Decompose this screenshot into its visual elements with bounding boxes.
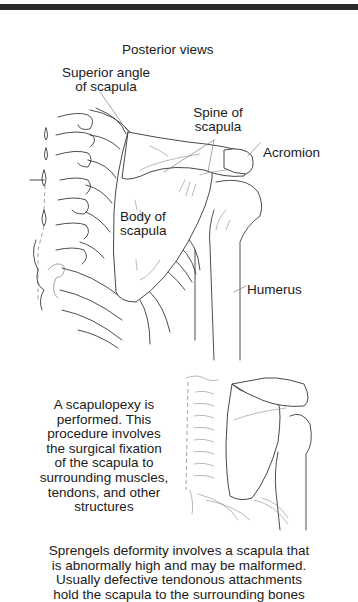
footer-caption-line: Sprengels deformity involves a scapula t… [10,544,348,559]
procedure-caption: A scapulopexy is performed. This procedu… [26,398,182,515]
label-acromion: Acromion [263,145,320,160]
vertebral-column-icon [30,128,64,310]
procedure-caption-line: performed. This [26,413,182,428]
label-humerus: Humerus [247,282,302,297]
label-superior-angle-line2: of scapula [46,80,166,94]
label-body-of-scapula: Body of scapula [120,210,167,238]
acromion-icon [224,149,253,174]
procedure-caption-line: the surgical fixation [26,442,182,457]
procedure-caption-line: structures [26,500,182,515]
figure-title: Posterior views [122,42,214,57]
footer-caption-line: Usually defective tendonous attachments [10,573,348,588]
label-spine-line2: scapula [186,120,250,134]
label-body-line2: scapula [120,224,167,238]
posterior-shoulder-illustration [0,0,358,400]
label-superior-angle-line1: Superior angle [46,66,166,80]
label-spine-of-scapula: Spine of scapula [186,106,250,134]
procedure-caption-line: procedure involves [26,427,182,442]
footer-caption-line: is abnormally high and may be malformed. [10,559,348,574]
procedure-caption-line: of the scapula to [26,456,182,471]
label-superior-angle: Superior angle of scapula [46,66,166,94]
humerus-icon [210,180,262,360]
acromion-leader-line [248,143,260,156]
footer-caption: Sprengels deformity involves a scapula t… [10,544,348,602]
footer-caption-line: hold the scapula to the surrounding bone… [10,588,348,602]
label-spine-line1: Spine of [186,106,250,120]
label-body-line1: Body of [120,210,167,224]
procedure-caption-line: A scapulopexy is [26,398,182,413]
procedure-caption-line: tendons, and other [26,486,182,501]
procedure-caption-line: surrounding muscles, [26,471,182,486]
